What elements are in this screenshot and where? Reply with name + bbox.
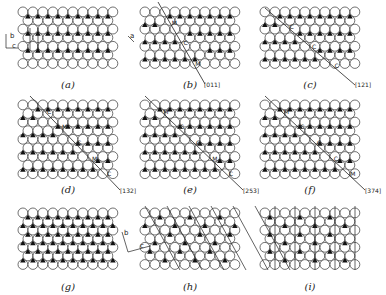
- lattice-atom: [260, 100, 270, 110]
- lattice-atom: [98, 100, 108, 110]
- lattice-atom: [300, 100, 310, 110]
- lattice-atom: [200, 41, 210, 51]
- axis-label-b-h: b: [124, 229, 128, 237]
- lattice-atom: [190, 24, 200, 34]
- lattice-atom: [165, 160, 175, 170]
- lattice-atom: [310, 100, 320, 110]
- lattice-atom: [58, 100, 68, 110]
- lattice-atom: [225, 217, 235, 227]
- lattice-atom: [165, 143, 175, 153]
- lattice-atom: [145, 33, 155, 43]
- lattice-atom: [180, 134, 190, 144]
- lattice-atom: [275, 33, 285, 43]
- lattice-atom: [48, 41, 58, 51]
- lattice-atom: [195, 217, 205, 227]
- lattice-atom: [200, 208, 210, 218]
- lattice-atom: [265, 160, 275, 170]
- lattice-atom: [315, 160, 325, 170]
- lattice-atom: [300, 208, 310, 218]
- lattice-atom: [98, 208, 108, 218]
- caption-c: (c): [303, 79, 316, 90]
- direction-label-e: [253]: [243, 187, 259, 194]
- lattice-atom: [18, 208, 28, 218]
- line-marker: M: [212, 155, 217, 162]
- lattice-atom: [28, 59, 38, 69]
- caption-e: (e): [183, 184, 197, 195]
- lattice-atom: [335, 217, 345, 227]
- axis-label-c-h: c: [140, 242, 144, 250]
- lattice-atom: [108, 100, 118, 110]
- lattice-atom: [280, 117, 290, 127]
- lattice-atom: [320, 7, 330, 17]
- lattice-atom: [345, 251, 355, 261]
- lattice-atom: [340, 41, 350, 51]
- lattice-atom: [330, 7, 340, 17]
- line-marker: C: [180, 123, 184, 130]
- lattice-atom: [185, 160, 195, 170]
- lattice-atom: [18, 24, 28, 34]
- lattice-atom: [335, 251, 345, 261]
- lattice-atom: [205, 234, 215, 244]
- lattice-atom: [78, 7, 88, 17]
- lattice-atom: [88, 100, 98, 110]
- lattice-atom: [175, 217, 185, 227]
- lattice-atom: [230, 59, 240, 69]
- lattice-atom: [210, 100, 220, 110]
- lattice-atom: [53, 143, 63, 153]
- lattice-atom: [78, 117, 88, 127]
- lattice-atom: [63, 160, 73, 170]
- lattice-atom: [295, 50, 305, 60]
- lattice-atom: [285, 143, 295, 153]
- lattice-atom: [345, 234, 355, 244]
- lattice-atom: [305, 143, 315, 153]
- lattice-atom: [48, 117, 58, 127]
- lattice-atom: [180, 260, 190, 270]
- caption-g: (g): [61, 281, 75, 292]
- lattice-atom: [280, 208, 290, 218]
- lattice-atom: [200, 117, 210, 127]
- lattice-atom: [68, 100, 78, 110]
- lattice-atom: [180, 225, 190, 235]
- axis-label-b-a: b: [10, 32, 14, 40]
- lattice-atom: [230, 24, 240, 34]
- lattice-atom: [295, 160, 305, 170]
- lattice-atom: [275, 234, 285, 244]
- lattice-atom: [320, 260, 330, 270]
- lattice-atom: [200, 134, 210, 144]
- lattice-atom: [285, 50, 295, 60]
- lattice-atom: [265, 143, 275, 153]
- lattice-atom: [78, 24, 88, 34]
- lattice-atom: [190, 100, 200, 110]
- lattice-atom: [88, 59, 98, 69]
- lattice-atom: [145, 126, 155, 136]
- lattice-atom: [305, 160, 315, 170]
- lattice-atom: [320, 24, 330, 34]
- lattice-atom: [230, 7, 240, 17]
- lattice-atom: [38, 24, 48, 34]
- lattice-atom: [165, 50, 175, 60]
- lattice-atom: [220, 100, 230, 110]
- lattice-atom: [170, 100, 180, 110]
- lattice-atom: [38, 208, 48, 218]
- lattice-atom: [180, 208, 190, 218]
- caption-a: (a): [61, 79, 75, 90]
- lattice-atom: [43, 126, 53, 136]
- lattice-atom: [145, 143, 155, 153]
- lattice-atom: [285, 217, 295, 227]
- lattice-atom: [28, 208, 38, 218]
- lattice-atom: [155, 251, 165, 261]
- lattice-atom: [280, 24, 290, 34]
- line-marker: M: [62, 123, 67, 130]
- line-marker: C: [290, 23, 294, 30]
- lattice-atom: [98, 59, 108, 69]
- lattice-atom: [210, 24, 220, 34]
- lattice-atom: [18, 59, 28, 69]
- lattice-atom: [88, 24, 98, 34]
- caption-h: (h): [183, 281, 197, 292]
- line-marker: C: [184, 39, 188, 46]
- lattice-atom: [305, 234, 315, 244]
- lattice-atom: [320, 59, 330, 69]
- lattice-atom: [160, 24, 170, 34]
- lattice-atom: [305, 50, 315, 60]
- lattice-atom: [190, 41, 200, 51]
